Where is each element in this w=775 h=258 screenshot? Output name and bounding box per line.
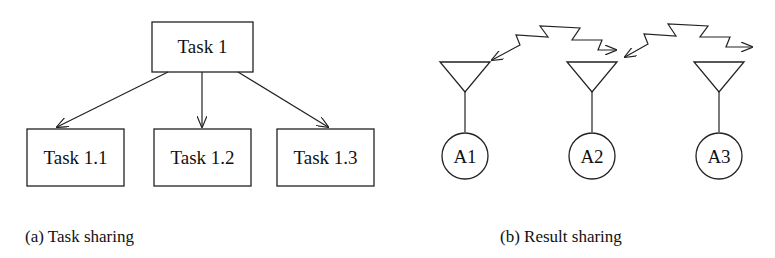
task-node-1-2: Task 1.2 [154, 129, 251, 186]
agent-a2: A2 [567, 62, 617, 179]
task-node-root: Task 1 [152, 22, 253, 72]
agent-label: A1 [453, 146, 476, 167]
caption-task-sharing: (a) Task sharing [25, 227, 134, 246]
funnel-icon [694, 62, 744, 92]
funnel-icon [567, 62, 617, 92]
funnel-icon [440, 62, 490, 92]
zigzag-arrow-a2-a3 [625, 24, 752, 57]
zigzag-arrow-a1-a2 [492, 26, 616, 60]
panel-result-sharing: A1 A2 A3 (b) Result sharing [440, 24, 752, 246]
task-node-1-1: Task 1.1 [27, 129, 124, 186]
agent-label: A3 [707, 146, 730, 167]
task-node-1-3: Task 1.3 [277, 129, 374, 186]
caption-result-sharing: (b) Result sharing [500, 227, 622, 246]
task-label: Task 1 [178, 36, 228, 57]
agent-label: A2 [580, 146, 603, 167]
panel-task-sharing: Task 1 Task 1.1 Task 1.2 Task 1.3 (a) Ta… [25, 22, 374, 246]
task-label: Task 1.1 [43, 147, 107, 168]
figure-canvas: Task 1 Task 1.1 Task 1.2 Task 1.3 (a) Ta… [0, 0, 775, 258]
agent-a3: A3 [694, 62, 744, 179]
arrow-root-to-task-1-1 [57, 72, 168, 127]
task-label: Task 1.3 [293, 147, 357, 168]
agent-a1: A1 [440, 62, 490, 179]
task-label: Task 1.2 [170, 147, 234, 168]
arrow-root-to-task-1-3 [238, 72, 328, 127]
